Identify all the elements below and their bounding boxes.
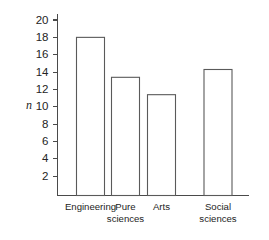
y-tick-label: 10	[36, 100, 49, 112]
x-tick-label: sciences	[199, 213, 237, 224]
y-tick-label: 14	[36, 66, 49, 78]
y-tick-label: 18	[36, 31, 49, 43]
y-axis-title: n	[26, 98, 32, 112]
y-tick-label: 20	[36, 14, 49, 26]
bar	[112, 77, 140, 195]
y-tick-label: 12	[36, 83, 49, 95]
y-tick-group: 2468101214161820	[36, 14, 58, 182]
bar	[77, 37, 105, 195]
x-tick-label: Pure	[115, 201, 135, 212]
chart-canvas: 2468101214161820 EngineeringPuresciences…	[0, 0, 269, 240]
bar	[148, 95, 176, 196]
x-tick-label: sciences	[107, 213, 145, 224]
x-tick-label: Social	[205, 201, 231, 212]
y-tick-label: 16	[36, 48, 49, 60]
y-tick-label: 4	[42, 152, 49, 164]
y-tick-label: 8	[42, 118, 48, 130]
bar-chart: 2468101214161820 EngineeringPuresciences…	[0, 0, 269, 240]
y-tick-label: 6	[42, 135, 48, 147]
x-tick-label: Arts	[153, 201, 170, 212]
bar-group	[77, 37, 233, 195]
bar	[204, 69, 232, 195]
y-tick-label: 2	[42, 170, 48, 182]
x-tick-label: Engineering	[65, 201, 116, 212]
category-label-group: EngineeringPuresciencesArtsSocialscience…	[65, 201, 237, 224]
